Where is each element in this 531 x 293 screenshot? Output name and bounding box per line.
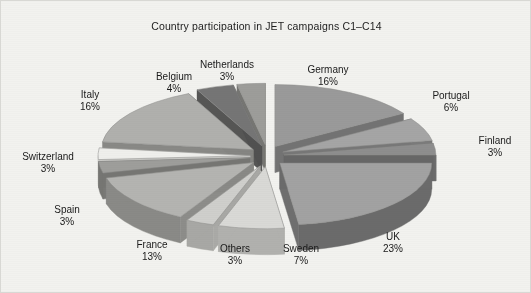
figure-panel: Country participation in JET campaigns C… [0,0,531,293]
slice-label-name: Sweden [283,243,319,255]
slice-label-france: France13% [136,239,167,262]
slice-label-portugal: Portugal6% [432,90,469,113]
slice-label-value: 16% [307,76,348,88]
slice-label-uk: UK23% [383,231,403,254]
slice-label-belgium: Belgium4% [156,71,192,94]
slice-label-value: 6% [432,102,469,114]
slice-label-netherlands: Netherlands3% [200,59,254,82]
slice-label-name: Finland [479,135,512,147]
slice-label-value: 16% [80,101,100,113]
slice-label-name: Others [220,243,250,255]
slice-label-name: Germany [307,64,348,76]
slice-label-value: 3% [479,147,512,159]
slice-label-italy: Italy16% [80,89,100,112]
slice-label-value: 13% [136,251,167,263]
slice-label-name: France [136,239,167,251]
slice-label-value: 3% [220,255,250,267]
slice-label-name: Portugal [432,90,469,102]
slice-label-value: 4% [156,83,192,95]
slice-label-others: Others3% [220,243,250,266]
slice-label-germany: Germany16% [307,64,348,87]
slice-label-name: Spain [54,204,80,216]
slice-label-value: 3% [22,163,74,175]
slice-label-sweden: Sweden7% [283,243,319,266]
slice-label-finland: Finland3% [479,135,512,158]
slice-label-spain: Spain3% [54,204,80,227]
slice-label-name: Belgium [156,71,192,83]
slice-label-name: Italy [80,89,100,101]
slice-label-name: Netherlands [200,59,254,71]
slice-label-switzerland: Switzerland3% [22,151,74,174]
slice-label-name: UK [383,231,403,243]
slice-label-value: 3% [200,71,254,83]
pie-chart-3d [1,1,531,293]
slice-label-value: 7% [283,255,319,267]
slice-label-name: Switzerland [22,151,74,163]
slice-label-value: 3% [54,216,80,228]
slice-label-value: 23% [383,243,403,255]
